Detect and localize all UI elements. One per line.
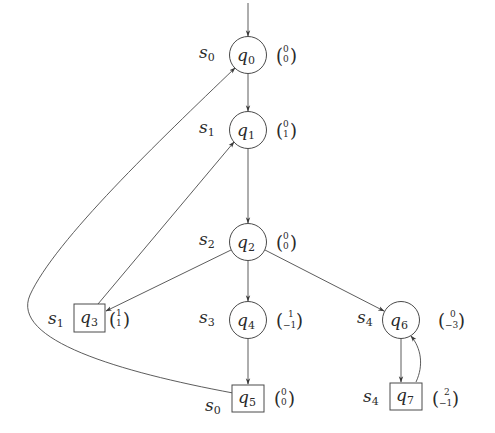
svg-text:−1: −1 <box>439 398 452 408</box>
node-q6: q6 s4 ( 0 −3 ) <box>357 302 465 339</box>
svg-text:0: 0 <box>283 54 289 64</box>
svg-text:(: ( <box>276 44 283 67</box>
svg-text:−3: −3 <box>445 320 459 330</box>
node-q6-state-label: s4 <box>357 307 373 329</box>
svg-text:(: ( <box>276 310 283 331</box>
svg-text:0: 0 <box>283 231 289 241</box>
svg-text:0: 0 <box>281 397 287 407</box>
svg-text:): ) <box>290 45 297 66</box>
edge-q2-q3 <box>106 250 231 311</box>
node-q7-vector: ( 2 −1 ) <box>432 387 459 409</box>
node-q3-vector: ( 1 1 ) <box>109 308 130 330</box>
svg-text:(: ( <box>109 309 116 330</box>
svg-text:0: 0 <box>281 387 287 397</box>
node-q0-vector: ( 0 0 ) <box>276 44 297 67</box>
svg-text:): ) <box>296 310 303 331</box>
svg-text:(: ( <box>274 388 281 409</box>
node-q0-state-label: s0 <box>199 42 215 64</box>
svg-text:(: ( <box>438 310 445 331</box>
svg-text:): ) <box>458 310 465 331</box>
node-q1-state-label: s1 <box>199 117 215 139</box>
svg-text:0: 0 <box>450 309 456 319</box>
edge-q3-q1 <box>98 142 234 304</box>
node-q1: q1 s1 ( 0 1 ) <box>199 112 297 149</box>
edge-q7-q6 <box>411 336 421 382</box>
edges <box>28 3 421 393</box>
node-q0: q0 s0 ( 0 0 ) <box>199 37 297 74</box>
node-q2-state-label: s2 <box>199 229 215 251</box>
edge-q2-q6 <box>265 250 384 311</box>
node-q1-vector: ( 0 1 ) <box>276 119 297 141</box>
node-q7: q7 s4 ( 2 −1 ) <box>363 383 459 410</box>
node-q4-vector: ( 1 −1 ) <box>276 309 303 331</box>
node-q4-state-label: s3 <box>199 307 215 329</box>
node-q6-vector: ( 0 −3 ) <box>438 309 465 331</box>
svg-text:1: 1 <box>116 318 122 328</box>
svg-text:2: 2 <box>444 387 450 397</box>
svg-text:): ) <box>123 309 130 330</box>
svg-text:−1: −1 <box>283 320 296 330</box>
svg-text:(: ( <box>276 120 283 141</box>
svg-text:1: 1 <box>116 308 122 318</box>
svg-text:1: 1 <box>288 309 294 319</box>
node-q2-vector: ( 0 0 ) <box>276 231 297 253</box>
svg-text:0: 0 <box>283 119 289 129</box>
svg-text:0: 0 <box>283 241 289 251</box>
node-q4: q4 s3 ( 1 −1 ) <box>199 302 303 339</box>
node-q7-state-label: s4 <box>363 386 379 408</box>
svg-text:): ) <box>288 388 295 409</box>
node-q5-state-label: s0 <box>205 395 221 417</box>
node-q3-state-label: s1 <box>48 308 64 330</box>
node-q2: q2 s2 ( 0 0 ) <box>199 224 297 261</box>
svg-text:): ) <box>452 388 459 409</box>
svg-text:(: ( <box>276 232 283 253</box>
svg-text:1: 1 <box>283 129 289 139</box>
node-q3: q3 s1 ( 1 1 ) <box>48 304 130 332</box>
node-q5-vector: ( 0 0 ) <box>274 387 295 409</box>
svg-text:(: ( <box>432 388 439 409</box>
game-graph-diagram: q0 s0 ( 0 0 ) q1 s1 ( 0 1 ) q2 s2 ( 0 0 … <box>0 0 495 433</box>
svg-text:): ) <box>290 232 297 253</box>
svg-text:): ) <box>290 120 297 141</box>
svg-text:0: 0 <box>283 44 289 54</box>
